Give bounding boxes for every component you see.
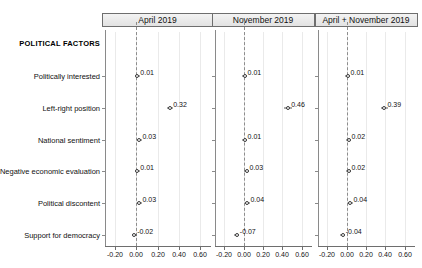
zero-reference-line-2	[347, 22, 348, 246]
x-tick-0-3	[179, 247, 180, 250]
gridline-0-2	[158, 32, 159, 246]
gridline-2-4	[405, 32, 406, 246]
y-tick-2-5	[315, 235, 318, 236]
x-tick-label-0-3: 0.40	[172, 251, 186, 258]
data-point-1-1	[286, 106, 290, 110]
y-tick-1-2	[212, 140, 215, 141]
category-label-0: Politically interested	[34, 72, 100, 81]
category-label-4: Political discontent	[38, 199, 100, 208]
x-tick-label-0-1: 0.00	[129, 251, 143, 258]
y-tick-0-0	[102, 76, 105, 77]
coefficient-plot: POLITICAL FACTORSPolitically interestedL…	[0, 0, 422, 268]
x-tick-1-0	[224, 247, 225, 250]
x-tick-label-0-4: 0.60	[193, 251, 207, 258]
data-point-label-0-3: 0.01	[140, 164, 154, 171]
data-point-label-0-1: 0.32	[173, 101, 187, 108]
data-point-label-1-1: 0.46	[291, 101, 305, 108]
y-tick-2-2	[315, 140, 318, 141]
data-point-0-4	[137, 201, 141, 205]
x-tick-1-1	[244, 247, 245, 250]
x-tick-0-2	[158, 247, 159, 250]
data-point-label-0-2: 0.03	[142, 133, 156, 140]
data-point-2-2	[347, 138, 351, 142]
data-point-label-0-5: -0.02	[137, 228, 153, 235]
category-label-5: Support for democracy	[24, 231, 100, 240]
gridline-2-2	[366, 32, 367, 246]
x-tick-label-2-3: 0.40	[378, 251, 392, 258]
data-point-2-1	[382, 106, 386, 110]
y-tick-1-3	[212, 171, 215, 172]
data-point-1-2	[243, 138, 247, 142]
data-point-label-0-4: 0.03	[142, 196, 156, 203]
data-point-label-1-2: 0.01	[248, 133, 262, 140]
x-tick-label-2-2: 0.20	[359, 251, 373, 258]
y-tick-2-0	[315, 76, 318, 77]
y-tick-0-1	[102, 108, 105, 109]
data-point-label-1-5: -0.07	[240, 228, 256, 235]
category-label-3: Negative economic evaluation	[0, 167, 100, 176]
data-point-1-4	[245, 201, 249, 205]
x-tick-label-1-0: -0.20	[216, 251, 232, 258]
y-tick-0-2	[102, 140, 105, 141]
data-point-0-0	[135, 74, 139, 78]
gridline-1-3	[282, 32, 283, 246]
x-tick-0-4	[200, 247, 201, 250]
data-point-label-2-4: 0.04	[353, 196, 367, 203]
data-point-label-0-0: 0.01	[140, 69, 154, 76]
data-point-label-1-0: 0.01	[248, 69, 262, 76]
gridline-1-2	[263, 32, 264, 246]
gridline-2-0	[327, 32, 328, 246]
y-tick-0-3	[102, 171, 105, 172]
zero-reference-line-0	[136, 22, 137, 246]
data-point-label-2-5: -0.04	[346, 228, 362, 235]
x-tick-label-0-0: -0.20	[107, 251, 123, 258]
data-point-label-1-3: 0.03	[250, 164, 264, 171]
x-tick-0-0	[115, 247, 116, 250]
gridline-0-4	[200, 32, 201, 246]
zero-reference-line-1	[244, 22, 245, 246]
data-point-1-3	[245, 169, 249, 173]
x-tick-label-0-2: 0.20	[151, 251, 165, 258]
y-tick-0-4	[102, 203, 105, 204]
data-point-label-2-1: 0.39	[387, 101, 401, 108]
group-header-political-factors: POLITICAL FACTORS	[19, 39, 100, 48]
x-tick-1-2	[263, 247, 264, 250]
data-point-2-4	[348, 201, 352, 205]
y-axis-spine-2	[318, 30, 319, 246]
data-point-0-1	[168, 106, 172, 110]
data-point-1-0	[243, 74, 247, 78]
x-tick-label-1-2: 0.20	[256, 251, 270, 258]
data-point-2-3	[347, 169, 351, 173]
y-tick-0-5	[102, 235, 105, 236]
x-tick-2-3	[385, 247, 386, 250]
x-tick-1-4	[302, 247, 303, 250]
x-tick-label-1-1: 0.00	[237, 251, 251, 258]
gridline-0-3	[179, 32, 180, 246]
x-tick-2-2	[366, 247, 367, 250]
x-tick-label-2-1: 0.00	[340, 251, 354, 258]
data-point-label-1-4: 0.04	[250, 196, 264, 203]
data-point-0-2	[137, 138, 141, 142]
panel-title-2: April + November 2019	[315, 13, 418, 27]
y-tick-1-4	[212, 203, 215, 204]
x-tick-1-3	[282, 247, 283, 250]
x-tick-label-2-0: -0.20	[319, 251, 335, 258]
data-point-1-5	[235, 233, 239, 237]
category-label-1: Left-right position	[42, 104, 100, 113]
x-tick-0-1	[136, 247, 137, 250]
x-tick-2-0	[327, 247, 328, 250]
y-axis-spine-1	[215, 30, 216, 246]
y-tick-1-0	[212, 76, 215, 77]
panel-title-1: November 2019	[212, 13, 315, 27]
data-point-label-2-0: 0.01	[351, 69, 365, 76]
x-tick-label-1-4: 0.60	[295, 251, 309, 258]
y-tick-2-1	[315, 108, 318, 109]
gridline-0-0	[115, 32, 116, 246]
y-tick-1-1	[212, 108, 215, 109]
data-point-label-2-3: 0.02	[352, 164, 366, 171]
data-point-label-2-2: 0.02	[352, 133, 366, 140]
panel-title-0: April 2019	[102, 13, 214, 27]
category-label-2: National sentiment	[38, 136, 100, 145]
y-axis-spine-0	[105, 30, 106, 246]
gridline-1-4	[302, 32, 303, 246]
